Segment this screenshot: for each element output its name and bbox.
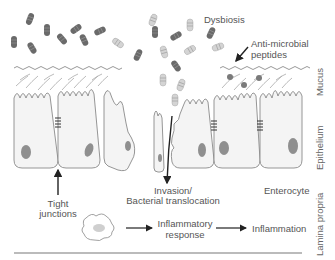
enterocyte-left-1 — [14, 93, 58, 168]
layer-label-mucus: Mucus — [314, 68, 325, 96]
enterocyte-left-2 — [58, 89, 100, 168]
mucus-strands-left — [16, 74, 108, 90]
bacteria-cluster — [11, 12, 225, 106]
label-amp-line2: peptides — [251, 49, 287, 60]
label-inflam-resp-line1: Inflammatory — [152, 218, 218, 229]
enterocyte-right-1 — [171, 99, 214, 168]
enterocyte-right-2 — [214, 93, 260, 168]
label-dysbiosis: Dysbiosis — [204, 14, 245, 25]
immune-cell — [82, 214, 114, 241]
enterocyte-right-3 — [260, 90, 302, 168]
label-inflam-resp-line2: response — [152, 229, 218, 240]
layer-label-lamina-propria: Lamina propria — [314, 193, 325, 256]
arrow-amp — [236, 47, 248, 61]
damaged-cell — [104, 90, 135, 170]
label-amp-line1: Anti-microbial — [251, 38, 309, 49]
mucus-line-right — [220, 67, 310, 70]
label-inflammation: Inflammation — [252, 223, 306, 234]
broken-cell — [154, 111, 164, 172]
label-invasion-line2: Bacterial translocation — [118, 195, 228, 206]
antimicrobial-peptides — [227, 74, 262, 88]
label-tight-line2: junctions — [30, 208, 86, 219]
layer-label-epithelium: Epithelium — [314, 126, 325, 170]
label-enterocyte: Enterocyte — [264, 185, 309, 196]
arrow-invasion — [167, 116, 172, 183]
mucus-line-left — [14, 67, 122, 70]
gut-barrier-diagram: Dysbiosis Anti-microbial peptides Tight … — [0, 0, 335, 260]
